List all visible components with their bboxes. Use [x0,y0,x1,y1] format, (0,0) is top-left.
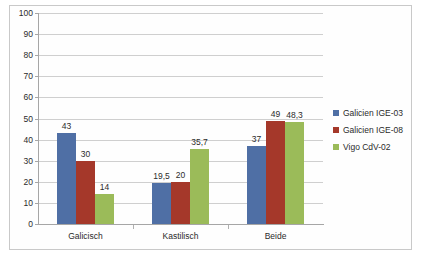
bar-value-label: 20 [170,171,191,180]
legend-item[interactable]: Galicien IGE-03 [333,106,419,120]
bar [190,149,209,224]
y-axis-label: 40 [0,136,33,145]
y-axis-label: 10 [0,199,33,208]
legend-swatch-icon [333,144,339,150]
bar-value-label: 37 [246,135,267,144]
bar [171,182,190,224]
bar [76,161,95,224]
y-axis-label: 30 [0,157,33,166]
x-axis-label: Beide [228,231,323,241]
bar-value-label: 35,7 [189,138,210,147]
legend-item[interactable]: Vigo CdV-02 [333,140,419,154]
y-axis-label: 70 [0,72,33,81]
bar-value-label: 19,5 [151,172,172,181]
bar-value-label: 48,3 [284,111,305,120]
bar-value-label: 49 [265,110,286,119]
bar [247,146,266,224]
legend-item-label: Galicien IGE-03 [343,108,403,118]
x-axis-tick [228,225,229,229]
legend-item-label: Galicien IGE-08 [343,125,403,135]
y-axis-label: 50 [0,115,33,124]
chart-legend: Galicien IGE-03Galicien IGE-08Vigo CdV-0… [333,106,419,157]
legend-item-label: Vigo CdV-02 [343,142,391,152]
legend-swatch-icon [333,127,339,133]
legend-swatch-icon [333,110,339,116]
bar [57,133,76,224]
bar-value-label: 30 [75,150,96,159]
x-axis-line [38,224,324,225]
x-axis-tick [133,225,134,229]
x-axis-label: Kastilisch [133,231,228,241]
x-axis-label: Galicisch [38,231,133,241]
chart-screenshot: 1009080706050403020100 43301419,52035,73… [0,0,421,258]
y-axis-label: 60 [0,93,33,102]
bar [285,122,304,224]
y-axis-label: 0 [0,220,33,229]
y-axis-label: 100 [0,9,33,18]
y-axis-label: 80 [0,51,33,60]
bar [95,194,114,224]
legend-item[interactable]: Galicien IGE-08 [333,123,419,137]
plot-bars: 43301419,52035,7374948,3 [38,13,323,224]
bar-value-label: 14 [94,183,115,192]
bar [266,121,285,224]
bar [152,183,171,224]
y-axis-label: 90 [0,30,33,39]
bar-value-label: 43 [56,122,77,131]
y-axis-label: 20 [0,178,33,187]
